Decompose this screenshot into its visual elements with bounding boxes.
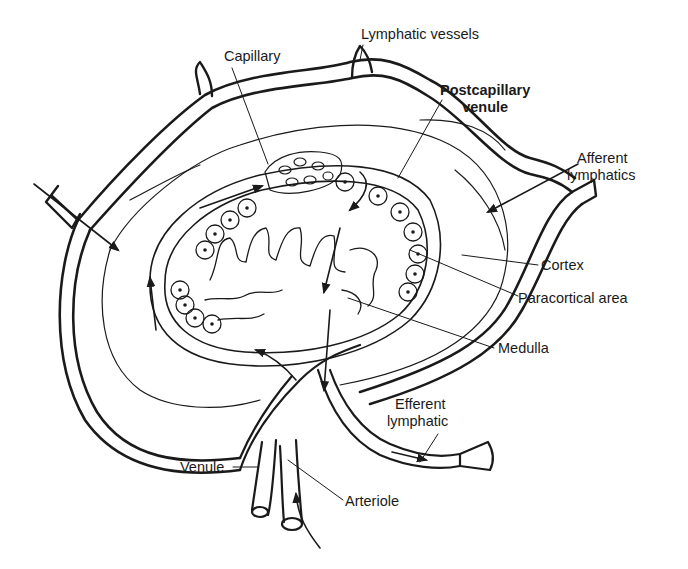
label-venule: Venule: [180, 459, 224, 476]
label-postcapillary-line1: Postcapillary: [440, 82, 530, 99]
label-postcapillary-venule: Postcapillary venule: [440, 82, 530, 115]
label-efferent-lymphatic: Efferent lymphatic: [387, 396, 448, 429]
label-afferent-lymphatics: Afferent lymphatics: [567, 150, 636, 183]
lymph-node-drawing: [0, 0, 688, 569]
capsule: [60, 59, 582, 472]
label-cortex: Cortex: [541, 257, 584, 274]
label-afferent-line1: Afferent: [567, 150, 636, 167]
label-postcapillary-line2: venule: [440, 99, 530, 116]
label-afferent-line2: lymphatics: [567, 167, 636, 184]
label-capillary: Capillary: [224, 48, 280, 65]
label-medulla: Medulla: [498, 340, 549, 357]
label-paracortical-area: Paracortical area: [518, 290, 628, 307]
label-efferent-line1: Efferent: [387, 396, 448, 413]
medullary-cords: [205, 228, 377, 320]
lymphocyte-cells: [171, 173, 427, 333]
afferent-vessels: [46, 46, 596, 228]
label-efferent-line2: lymphatic: [387, 413, 448, 430]
paracortex-ring: [150, 166, 440, 366]
label-lymphatic-vessels: Lymphatic vessels: [361, 26, 479, 43]
label-arteriole: Arteriole: [345, 493, 399, 510]
